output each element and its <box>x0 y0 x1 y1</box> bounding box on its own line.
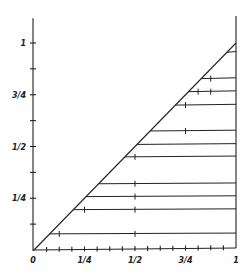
horizontal-line <box>73 209 236 210</box>
diagonal-line <box>34 43 236 250</box>
horizontal-line <box>150 130 236 131</box>
horizontal-line <box>86 196 236 197</box>
x-tick-label: 1/4 <box>77 256 91 265</box>
horizontal-line <box>175 104 236 105</box>
origin-label: 0 <box>30 256 36 265</box>
x-tick-label: 1 <box>233 256 239 265</box>
horizontal-line <box>137 144 236 145</box>
horizontal-line <box>125 156 236 157</box>
x-tick-label: 3/4 <box>178 256 192 265</box>
horizontal-line <box>99 183 236 184</box>
y-tick-label: 3/4 <box>12 91 26 100</box>
horizontal-line <box>50 233 236 234</box>
axis-labels: 01/41/23/411/41/23/41 <box>12 39 239 265</box>
horizontal-line <box>189 91 236 92</box>
horizontal-line <box>201 78 236 79</box>
horizontal-lines <box>50 52 236 237</box>
axes <box>30 16 236 252</box>
y-tick-label: 1/4 <box>12 194 26 203</box>
y-tick-label: 1 <box>20 39 26 48</box>
y-tick-label: 1/2 <box>12 143 26 152</box>
x-tick-label: 1/2 <box>128 256 142 265</box>
staircase-diagram: 01/41/23/411/41/23/41 <box>0 0 252 278</box>
